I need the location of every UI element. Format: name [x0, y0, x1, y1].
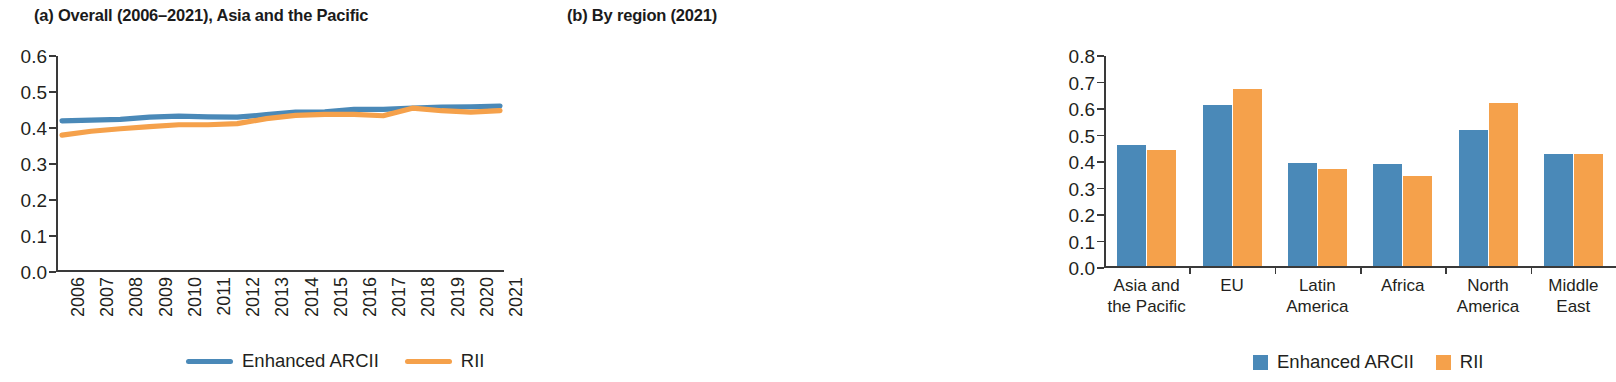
- panel-b-y-tick-label: 0.5: [1069, 126, 1095, 145]
- bar-rii: [1233, 89, 1262, 267]
- panel-a-x-tick-label: 2010: [186, 277, 204, 317]
- panel-a-x-tick-label: 2007: [98, 277, 116, 317]
- legend-item: Enhanced ARCII: [1253, 353, 1414, 372]
- panel-b: (b) By region (2021) 0.00.10.20.30.40.50…: [520, 0, 1117, 382]
- panel-a-y-tick: [49, 127, 56, 129]
- bar-enhanced-arcii: [1544, 154, 1573, 267]
- panel-b-x-tick: [1189, 268, 1191, 274]
- bar-enhanced-arcii: [1117, 145, 1146, 266]
- bar-rii: [1318, 169, 1347, 267]
- panel-b-y-tick-label: 0.2: [1069, 206, 1095, 225]
- bar-rii: [1147, 150, 1176, 267]
- panel-b-x-tick: [1360, 268, 1362, 274]
- panel-a-title: (a) Overall (2006–2021), Asia and the Pa…: [34, 6, 368, 25]
- panel-a-y-tick-label: 0.3: [21, 155, 47, 174]
- panel-b-x-tick-label: North America: [1457, 276, 1519, 317]
- panel-b-x-tick: [1445, 268, 1447, 274]
- panel-b-x-tick-label: Africa: [1381, 276, 1424, 297]
- panel-b-x-tick-label: Asia and the Pacific: [1107, 276, 1185, 317]
- bar-enhanced-arcii: [1203, 105, 1232, 267]
- panel-b-plot-area: 0.00.10.20.30.40.50.60.70.8Asia and the …: [1104, 56, 1616, 268]
- panel-a-x-tick-label: 2017: [390, 277, 408, 317]
- panel-b-y-tick-label: 0.3: [1069, 179, 1095, 198]
- legend-item: RII: [1436, 353, 1484, 372]
- panel-b-y-tick: [1097, 135, 1104, 137]
- panel-b-x-tick-label: EU: [1220, 276, 1244, 297]
- legend-label: Enhanced ARCII: [1277, 353, 1414, 372]
- panel-a-x-axis: [56, 270, 504, 272]
- panel-b-title: (b) By region (2021): [567, 6, 717, 25]
- panel-b-x-tick: [1275, 268, 1277, 274]
- panel-a-x-tick-label: 2016: [361, 277, 379, 317]
- panel-b-x-tick-label: Middle East: [1548, 276, 1598, 317]
- bar-rii: [1403, 176, 1432, 266]
- panel-b-legend: Enhanced ARCIIRII: [1253, 353, 1483, 372]
- bar-enhanced-arcii: [1373, 164, 1402, 266]
- panel-a-plot-area: 0.00.10.20.30.40.50.62006200720082009201…: [56, 56, 504, 272]
- panel-a-y-tick: [49, 271, 56, 273]
- panel-a-x-tick-label: 2012: [244, 277, 262, 317]
- panel-a-y-tick-label: 0.2: [21, 191, 47, 210]
- panel-a-y-tick-label: 0.6: [21, 47, 47, 66]
- panel-a-x-tick-label: 2015: [332, 277, 350, 317]
- panel-b-x-tick-label: Latin America: [1286, 276, 1348, 317]
- panel-a-y-tick: [49, 199, 56, 201]
- panel-a-x-tick-label: 2011: [215, 277, 233, 316]
- panel-b-y-tick: [1097, 55, 1104, 57]
- bar-rii: [1489, 103, 1518, 267]
- panel-b-x-tick: [1531, 268, 1533, 274]
- panel-a-y-tick-label: 0.4: [21, 119, 47, 138]
- panel-a-x-tick-label: 2019: [449, 277, 467, 317]
- panel-b-y-tick-label: 0.0: [1069, 259, 1095, 278]
- legend-item: Enhanced ARCII: [186, 352, 379, 371]
- panel-a-x-tick-label: 2009: [157, 277, 175, 317]
- legend-line-icon: [186, 359, 233, 365]
- panel-a-y-tick-label: 0.0: [21, 263, 47, 282]
- panel-b-y-tick: [1097, 188, 1104, 190]
- panel-a-y-tick-label: 0.1: [21, 227, 47, 246]
- panel-b-y-tick: [1097, 214, 1104, 216]
- panel-b-y-tick-label: 0.4: [1069, 153, 1095, 172]
- panel-a-y-tick: [49, 163, 56, 165]
- panel-a-x-tick-label: 2018: [419, 277, 437, 317]
- panel-a: (a) Overall (2006–2021), Asia and the Pa…: [0, 0, 520, 382]
- legend-item: RII: [405, 352, 485, 371]
- panel-a-x-tick-label: 2014: [303, 277, 321, 317]
- panel-b-y-tick: [1097, 267, 1104, 269]
- panel-b-y-tick-label: 0.1: [1069, 232, 1095, 251]
- panel-a-x-tick-label: 2008: [127, 277, 145, 317]
- panel-b-y-tick: [1097, 241, 1104, 243]
- panel-a-lines: [56, 56, 504, 272]
- bar-rii: [1574, 154, 1603, 267]
- panel-b-y-tick: [1097, 161, 1104, 163]
- panel-b-y-tick: [1097, 108, 1104, 110]
- legend-line-icon: [405, 359, 452, 365]
- bar-enhanced-arcii: [1459, 130, 1488, 266]
- legend-swatch-icon: [1253, 355, 1268, 370]
- legend-swatch-icon: [1436, 355, 1451, 370]
- legend-label: RII: [461, 352, 485, 371]
- panel-b-y-tick: [1097, 82, 1104, 84]
- panel-b-y-axis: [1104, 56, 1106, 268]
- panel-a-y-tick: [49, 91, 56, 93]
- legend-label: Enhanced ARCII: [242, 352, 379, 371]
- panel-a-y-tick-label: 0.5: [21, 83, 47, 102]
- panel-a-y-axis: [56, 56, 58, 272]
- panel-a-y-tick: [49, 55, 56, 57]
- panel-b-y-tick-label: 0.8: [1069, 47, 1095, 66]
- panel-a-y-tick: [49, 235, 56, 237]
- panel-a-x-tick-label: 2013: [273, 277, 291, 317]
- panel-a-legend: Enhanced ARCIIRII: [186, 352, 484, 371]
- panel-a-x-tick-label: 2006: [69, 277, 87, 317]
- panel-b-y-tick-label: 0.7: [1069, 73, 1095, 92]
- bar-enhanced-arcii: [1288, 163, 1317, 267]
- panel-b-y-tick-label: 0.6: [1069, 100, 1095, 119]
- legend-label: RII: [1460, 353, 1484, 372]
- panel-a-x-tick-label: 2020: [478, 277, 496, 317]
